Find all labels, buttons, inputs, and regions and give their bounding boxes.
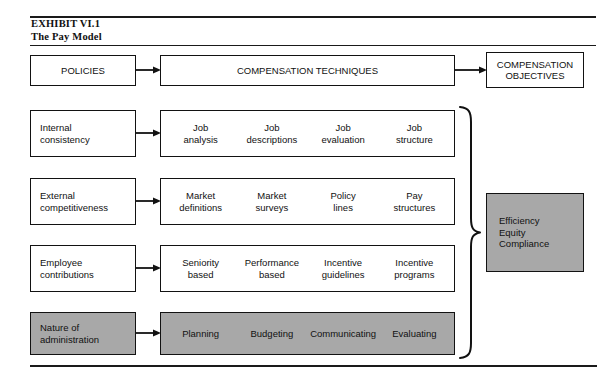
policy-label: Employee contributions	[31, 257, 135, 280]
technique-item: Job analysis	[165, 122, 236, 145]
technique-item: Job structure	[379, 122, 450, 145]
technique-item: Seniority based	[165, 257, 236, 280]
exhibit-number: EXHIBIT VI.1	[31, 18, 102, 31]
techniques-list: Job analysis Job descriptions Job evalua…	[161, 111, 454, 156]
policies-label: POLICIES	[61, 65, 105, 77]
top-rule	[30, 16, 596, 18]
policy-label: Internal consistency	[31, 122, 135, 145]
techniques-box-nature-of-administration: Planning Budgeting Communicating Evaluat…	[160, 312, 455, 355]
technique-item: Pay structures	[379, 190, 450, 213]
arrow-right-icon	[136, 328, 161, 338]
policy-label: Nature of administration	[31, 322, 135, 345]
compensation-objectives-box: COMPENSATION OBJECTIVES	[486, 52, 584, 88]
policy-label: External competitiveness	[31, 190, 135, 213]
policy-box-internal-consistency: Internal consistency	[30, 110, 136, 157]
policies-box: POLICIES	[30, 55, 136, 86]
technique-item: Communicating	[308, 328, 379, 340]
technique-item: Job evaluation	[308, 122, 379, 145]
exhibit-figure: EXHIBIT VI.1 The Pay Model POLICIES COMP…	[0, 0, 615, 382]
technique-item: Policy lines	[308, 190, 379, 213]
technique-item: Job descriptions	[236, 122, 307, 145]
techniques-list: Market definitions Market surveys Policy…	[161, 179, 454, 224]
techniques-box-internal-consistency: Job analysis Job descriptions Job evalua…	[160, 110, 455, 157]
policy-box-external-competitiveness: External competitiveness	[30, 178, 136, 225]
arrow-right-icon	[136, 263, 161, 273]
compensation-techniques-label: COMPENSATION TECHNIQUES	[237, 65, 378, 77]
techniques-list: Planning Budgeting Communicating Evaluat…	[161, 313, 454, 354]
caption-underline-rule	[30, 45, 596, 46]
exhibit-title: The Pay Model	[31, 31, 102, 44]
policy-box-employee-contributions: Employee contributions	[30, 245, 136, 292]
technique-item: Planning	[165, 328, 236, 340]
techniques-box-external-competitiveness: Market definitions Market surveys Policy…	[160, 178, 455, 225]
arrow-right-icon	[136, 128, 161, 138]
bottom-rule	[30, 365, 597, 367]
techniques-list: Seniority based Performance based Incent…	[161, 246, 454, 291]
compensation-techniques-box: COMPENSATION TECHNIQUES	[160, 55, 455, 86]
techniques-box-employee-contributions: Seniority based Performance based Incent…	[160, 245, 455, 292]
compensation-objectives-label: COMPENSATION OBJECTIVES	[497, 59, 573, 82]
compensation-objectives-results-box: Efficiency Equity Compliance	[486, 193, 584, 272]
exhibit-caption: EXHIBIT VI.1 The Pay Model	[31, 18, 102, 43]
technique-item: Performance based	[236, 257, 307, 280]
technique-item: Market surveys	[236, 190, 307, 213]
right-curly-brace-icon	[458, 106, 482, 359]
arrow-right-icon	[136, 65, 161, 75]
policy-box-nature-of-administration: Nature of administration	[30, 312, 136, 355]
technique-item: Evaluating	[379, 328, 450, 340]
arrow-right-icon	[136, 196, 161, 206]
results-label: Efficiency Equity Compliance	[487, 215, 549, 250]
arrow-right-icon	[455, 65, 487, 75]
technique-item: Incentive programs	[379, 257, 450, 280]
technique-item: Budgeting	[236, 328, 307, 340]
technique-item: Incentive guidelines	[308, 257, 379, 280]
technique-item: Market definitions	[165, 190, 236, 213]
